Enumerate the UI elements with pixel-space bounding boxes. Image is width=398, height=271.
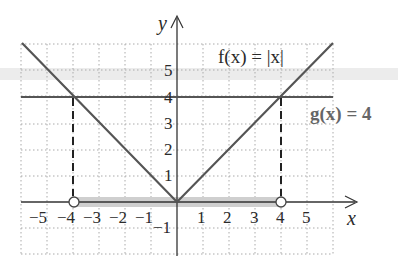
svg-text:4: 4 (164, 88, 173, 107)
svg-text:5: 5 (302, 208, 311, 227)
svg-text:−4: −4 (57, 208, 76, 227)
svg-text:2: 2 (164, 140, 173, 159)
open-circle-pos4 (276, 197, 286, 207)
svg-text:3: 3 (164, 114, 173, 133)
svg-text:3: 3 (250, 208, 259, 227)
svg-text:−5: −5 (29, 208, 47, 227)
graph: y x f(x) = |x| g(x) = 4 −5 −4 −3 −2 −1 1… (0, 0, 398, 271)
background-band (0, 68, 398, 80)
svg-text:5: 5 (164, 61, 173, 80)
svg-text:1: 1 (197, 208, 206, 227)
svg-text:−2: −2 (109, 208, 127, 227)
svg-text:4: 4 (276, 208, 285, 227)
svg-text:−1: −1 (135, 208, 153, 227)
svg-text:2: 2 (223, 208, 232, 227)
x-axis-label: x (346, 207, 356, 229)
y-axis-label: y (156, 12, 167, 35)
g-label: g(x) = 4 (310, 103, 372, 125)
svg-text:1: 1 (164, 166, 173, 185)
y-tick-labels: 5 4 3 2 1 −1 (153, 61, 173, 237)
svg-text:−3: −3 (83, 208, 101, 227)
open-circle-neg4 (69, 197, 79, 207)
svg-text:−1: −1 (153, 218, 171, 237)
f-label: f(x) = |x| (218, 46, 284, 68)
